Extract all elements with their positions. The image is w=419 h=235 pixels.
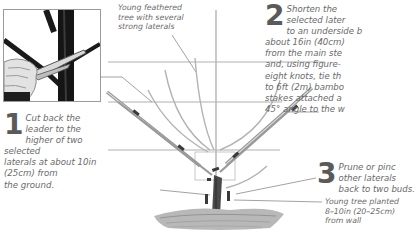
step-line: about 16in (40cm) [265,37,419,48]
caption-line: Young tree planted [325,197,399,207]
step-line: the ground. [4,180,104,191]
step-line: 45° angle to the w [265,104,419,115]
step-3-annotation: 3 Prune or pinc other laterals back to t… [317,162,419,195]
caption-line: strong laterals [118,22,184,32]
step-line: to 6ft (2m) bambo [265,82,419,93]
soil-mound [154,208,284,230]
step-number: 2 [265,5,284,27]
caption-line: Young feathered [118,3,184,13]
step-number: 1 [4,114,23,136]
step-line: selected later [265,15,419,26]
step-line: from the main ste [265,48,419,59]
step-1-annotation: 1 Cut back the leader to the higher of t… [4,113,104,191]
step-line: to an underside b [265,26,419,37]
step-line: Shorten the [265,4,419,15]
tree-laterals [148,10,280,190]
step-line: and, using figure- [265,59,419,70]
step-line: stakes attached a [265,93,419,104]
step-line: (25cm) from [4,168,104,179]
caption-line: 8–10in (20–25cm) [325,207,399,217]
caption-young-feathered-tree: Young feathered tree with several strong… [118,3,184,32]
step-2-annotation: 2 Shorten the selected later to an under… [265,4,419,115]
caption-line: from wall [325,216,399,226]
caption-young-tree-planted: Young tree planted 8–10in (20–25cm) from… [325,197,399,226]
step-line: eight knots, tie th [265,71,419,82]
step-number: 3 [317,163,336,185]
step-line: laterals at about 10in [4,157,104,168]
caption-line: tree with several [118,13,184,23]
